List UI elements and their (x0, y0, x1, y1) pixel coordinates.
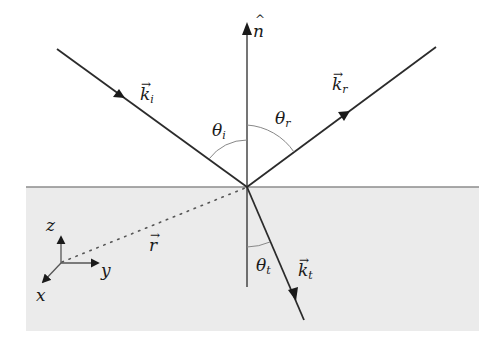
axis-y-label: y (101, 262, 111, 279)
transmitted-wave-label: →kt (298, 262, 313, 281)
position-vector-label: →r (149, 237, 157, 254)
axis-z-label: z (46, 217, 55, 234)
angle-transmission-label: θt (256, 257, 271, 276)
reflection-refraction-diagram: ^n →ki →kr →kt →r θi θr θt z y x (0, 0, 500, 347)
incident-wave-label: →ki (140, 86, 154, 105)
angle-arc-incidence (209, 140, 247, 159)
incident-ray (57, 49, 247, 187)
medium-region (26, 187, 479, 331)
normal-label: ^n (253, 23, 264, 40)
angle-reflection-label: θr (275, 110, 291, 129)
axis-x-label: x (36, 287, 46, 304)
angle-incidence-label: θi (212, 122, 226, 141)
diagram-canvas (0, 0, 500, 347)
reflected-wave-label: →kr (332, 76, 348, 95)
reflected-arrow-icon (338, 111, 350, 121)
normal-arrow-icon (242, 22, 252, 35)
